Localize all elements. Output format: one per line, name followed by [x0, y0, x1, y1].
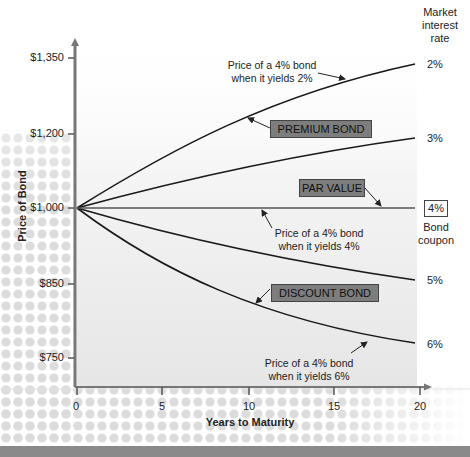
- y-tick-label: $750: [4, 351, 64, 363]
- bottom-bar: [0, 446, 470, 457]
- x-tick-label: 15: [324, 400, 344, 412]
- rate-label-3pct: 3%: [427, 132, 443, 144]
- rate-label-5pct: 5%: [427, 274, 443, 286]
- y-tick-label: $1,000: [4, 201, 64, 213]
- y-tick-label: $1,350: [4, 51, 64, 63]
- annotation-yield-4pct: Price of a 4% bond when it yields 4%: [264, 227, 374, 253]
- rate-label-6pct: 6%: [427, 338, 443, 350]
- x-tick-label: 20: [410, 400, 430, 412]
- market-rate-header: Market interest rate: [410, 6, 470, 45]
- par-value-label: PAR VALUE: [299, 179, 365, 197]
- x-tick-label: 5: [152, 400, 172, 412]
- coupon-box: 4%: [424, 200, 448, 217]
- rate-label-2pct: 2%: [427, 58, 443, 70]
- coupon-caption: Bond coupon: [413, 221, 459, 247]
- x-tick-label: 10: [239, 400, 259, 412]
- y-tick-label: $1,200: [4, 127, 64, 139]
- x-axis-title: Years to Maturity: [190, 416, 310, 428]
- x-tick-label: 0: [66, 400, 86, 412]
- discount-bond-label: DISCOUNT BOND: [271, 284, 379, 302]
- y-tick-label: $850: [4, 277, 64, 289]
- bond-price-chart: Price of Bond $1,350 $1,200 $1,000 $850 …: [0, 0, 470, 457]
- annotation-yield-6pct: Price of a 4% bond when it yields 6%: [254, 357, 364, 383]
- premium-bond-label: PREMIUM BOND: [270, 120, 372, 138]
- annotation-yield-2pct: Price of a 4% bond when it yields 2%: [222, 59, 322, 85]
